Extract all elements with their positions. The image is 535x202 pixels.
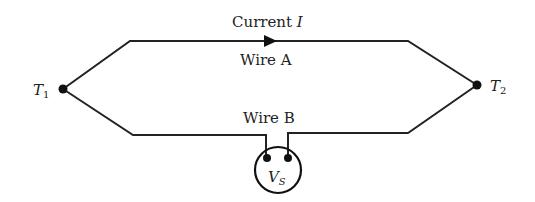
t1-label: T1 (33, 81, 49, 100)
wire-b-right (288, 85, 477, 158)
junction-t2 (473, 81, 482, 90)
current-arrow-icon (264, 35, 277, 47)
thermocouple-diagram: Current I Wire A Wire B T1 T2 VS (0, 0, 535, 202)
wire-b-left (63, 89, 266, 158)
vs-label: VS (268, 168, 286, 187)
junction-t1 (59, 85, 68, 94)
voltmeter-terminal-right (284, 154, 292, 162)
wire-a-label: Wire A (240, 51, 292, 69)
current-label: Current I (232, 13, 304, 31)
wire-b-label: Wire B (243, 109, 295, 127)
t2-label: T2 (490, 77, 506, 96)
voltmeter-terminal-left (263, 154, 271, 162)
